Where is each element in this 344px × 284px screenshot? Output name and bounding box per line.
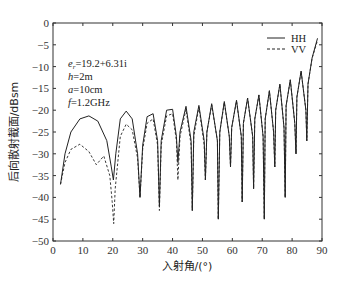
x-tick-label: 40 [167,244,179,256]
y-tick-label: −40 [32,191,50,203]
y-tick-label: −25 [32,126,50,138]
svg-text:h=2m: h=2m [68,71,93,82]
x-tick-label: 30 [137,244,149,256]
svg-text:f=1.2GHz: f=1.2GHz [68,97,110,108]
y-tick-label: −5 [37,39,49,51]
parameter-annotation: er=19.2+6.31i h=2m a=10cm f=1.2GHz [68,58,127,108]
y-tick-label: −35 [32,170,50,182]
y-tick-label: −50 [32,235,50,247]
legend-hh-label: HH [291,33,307,44]
x-tick-label: 20 [107,244,119,256]
x-tick-label: 60 [227,244,239,256]
legend-vv-label: VV [291,44,307,55]
y-tick-label: −45 [32,213,50,225]
x-tick-label: 0 [50,244,56,256]
x-tick-label: 90 [317,244,329,256]
y-tick-label: −20 [32,104,50,116]
legend: HH VV [267,33,307,55]
svg-text:er=19.2+6.31i: er=19.2+6.31i [68,58,127,71]
y-axis-label: 后向散射截面/dBsm [7,82,21,183]
y-tick-label: −30 [32,148,50,160]
backscatter-chart: 01020304050607080900−5−10−15−20−25−30−35… [0,0,344,284]
y-tick-label: −15 [32,82,50,94]
plot-frame [53,23,322,241]
y-tick-label: 0 [44,17,50,29]
x-axis-label: 入射角/(°) [162,259,213,273]
svg-text:a=10cm: a=10cm [68,84,103,95]
x-tick-label: 50 [197,244,209,256]
x-tick-label: 70 [257,244,269,256]
x-tick-label: 80 [287,244,299,256]
y-tick-label: −10 [32,61,50,73]
x-tick-label: 10 [77,244,89,256]
